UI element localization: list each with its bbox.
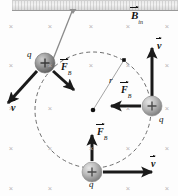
- force-subscript: B: [68, 70, 72, 76]
- radius-label: r: [109, 76, 113, 85]
- field-into-page-cross: ×: [126, 61, 130, 70]
- field-into-page-cross: ×: [165, 144, 169, 153]
- velocity-label-bottom: v: [151, 159, 155, 169]
- magnetic-field-subscript: in: [138, 19, 143, 25]
- velocity-symbol: v: [11, 103, 15, 113]
- field-into-page-cross: ×: [48, 144, 52, 153]
- field-into-page-cross: ×: [9, 22, 13, 31]
- velocity-label-right: v: [157, 41, 161, 51]
- field-into-page-cross: ×: [126, 184, 130, 193]
- force-subscript: B: [128, 93, 132, 99]
- velocity-label-upper-left: v: [11, 103, 15, 113]
- force-subscript: B: [104, 135, 108, 141]
- field-into-page-cross: ×: [126, 144, 130, 153]
- field-into-page-cross: ×: [89, 22, 93, 31]
- force-symbol: F: [61, 62, 68, 72]
- charge-label-bottom: q: [89, 180, 94, 189]
- field-into-page-cross: ×: [165, 61, 169, 70]
- charge-right: [142, 96, 162, 116]
- field-into-page-cross: ×: [48, 22, 52, 31]
- field-into-page-cross: ×: [9, 144, 13, 153]
- magnetic-field-label: Bin: [131, 10, 143, 23]
- field-into-page-cross: ×: [9, 184, 13, 193]
- velocity-vector-upper-left: [8, 71, 37, 103]
- force-symbol: F: [97, 127, 104, 137]
- orbit-radius-line: [93, 60, 124, 110]
- charge-label-right: q: [159, 115, 164, 124]
- beam-nozzle-icon: [70, 9, 77, 14]
- field-into-page-cross: ×: [126, 104, 130, 113]
- field-into-page-cross: ×: [48, 184, 52, 193]
- velocity-symbol: v: [157, 41, 161, 51]
- field-into-page-cross: ×: [48, 104, 52, 113]
- field-into-page-cross: ×: [165, 104, 169, 113]
- force-symbol: F: [121, 85, 128, 95]
- force-label-right: FB: [121, 85, 131, 97]
- field-into-page-cross: ×: [165, 22, 169, 31]
- force-label-bottom: FB: [97, 127, 107, 139]
- field-into-page-cross: ×: [89, 61, 93, 70]
- field-into-page-cross: ×: [89, 144, 93, 153]
- charge-label-upper-left: q: [27, 50, 32, 59]
- orbit-center-dot: [91, 108, 96, 113]
- field-into-page-cross: ×: [165, 184, 169, 193]
- field-into-page-cross: ×: [126, 22, 130, 31]
- physics-figure-canvas: ××××××××××××××××××××××× Bin r q q q FB F…: [0, 0, 178, 196]
- field-into-page-cross: ×: [48, 61, 52, 70]
- field-into-page-cross: ×: [9, 61, 13, 70]
- force-label-upper-left: FB: [61, 62, 71, 74]
- velocity-symbol: v: [151, 159, 155, 169]
